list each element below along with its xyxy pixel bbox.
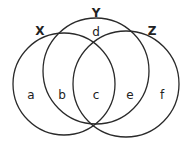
circle-x (13, 33, 115, 135)
set-label-z: Z (148, 25, 157, 37)
set-label-y: Y (92, 7, 101, 19)
region-label-b: b (58, 89, 66, 101)
region-label-c: c (93, 89, 100, 101)
region-label-d: d (92, 26, 100, 38)
region-label-f: f (160, 89, 164, 101)
region-label-e: e (126, 89, 133, 101)
set-label-x: X (35, 25, 44, 37)
venn-circles (0, 0, 192, 143)
circle-z (73, 31, 179, 137)
region-label-a: a (27, 89, 34, 101)
venn-diagram: X Y Z a b c d e f (0, 0, 192, 143)
